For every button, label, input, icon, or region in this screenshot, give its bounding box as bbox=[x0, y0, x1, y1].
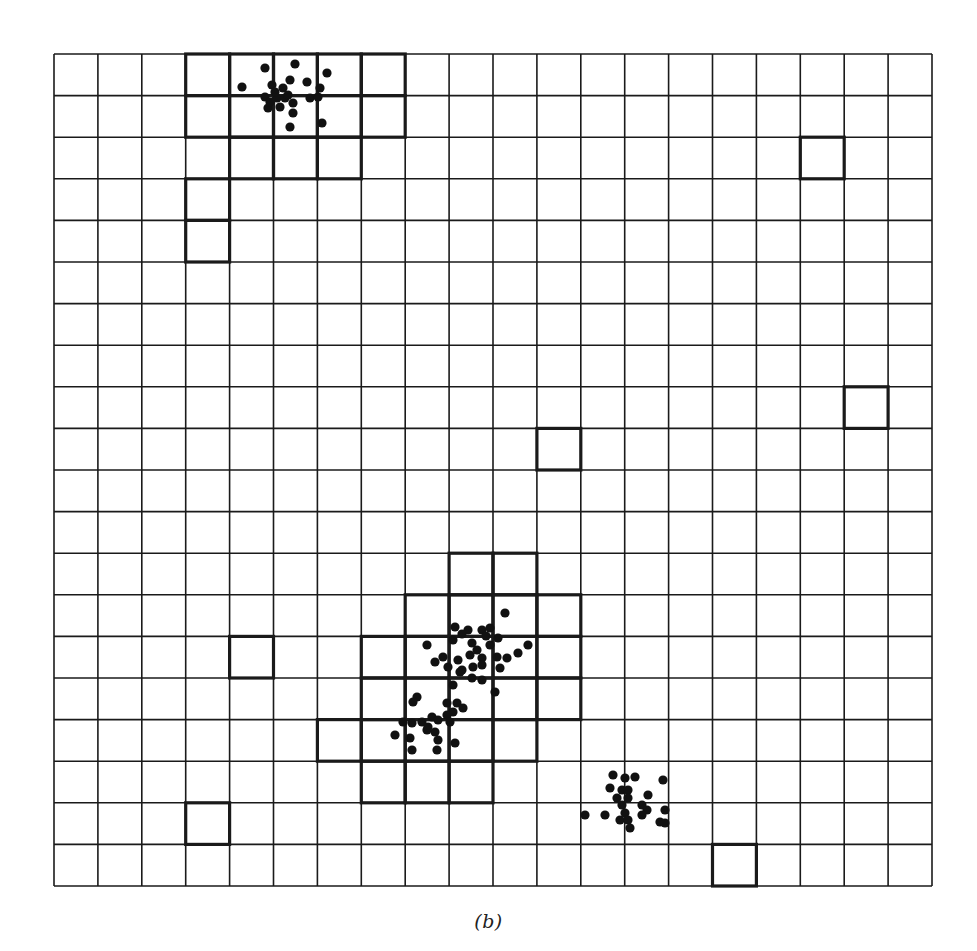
data-point-lower-right-cluster bbox=[643, 790, 652, 799]
data-point-lower-right-cluster bbox=[660, 818, 669, 827]
highlighted-cell-middle-cluster bbox=[537, 678, 581, 720]
highlighted-cell-middle-cluster bbox=[405, 595, 449, 637]
data-point-middle-cluster bbox=[405, 733, 414, 742]
highlighted-cell-top-cluster bbox=[186, 54, 230, 96]
data-point-top-cluster bbox=[270, 87, 279, 96]
data-point-lower-right-cluster bbox=[615, 815, 624, 824]
data-point-lower-right-cluster bbox=[617, 800, 626, 809]
data-point-middle-cluster bbox=[407, 718, 416, 727]
data-point-lower-right-cluster bbox=[608, 770, 617, 779]
figure-caption: (b) bbox=[0, 910, 977, 932]
highlighted-cell-middle-cluster bbox=[317, 720, 361, 762]
data-point-middle-cluster bbox=[513, 648, 522, 657]
data-point-top-cluster bbox=[283, 90, 292, 99]
data-point-middle-cluster bbox=[450, 738, 459, 747]
data-point-top-cluster bbox=[260, 63, 269, 72]
highlighted-cell-top-cluster bbox=[230, 137, 274, 179]
data-point-middle-cluster bbox=[422, 640, 431, 649]
data-point-middle-cluster bbox=[442, 698, 451, 707]
data-point-middle-cluster bbox=[432, 745, 441, 754]
data-point-middle-cluster bbox=[433, 715, 442, 724]
highlighted-cell-top-cluster bbox=[186, 96, 230, 138]
data-point-lower-right-cluster bbox=[658, 775, 667, 784]
data-point-lower-right-cluster bbox=[625, 823, 634, 832]
data-point-top-cluster bbox=[288, 108, 297, 117]
data-point-middle-cluster bbox=[390, 730, 399, 739]
highlighted-cell-middle-cluster bbox=[493, 553, 537, 595]
data-point-middle-cluster bbox=[438, 652, 447, 661]
highlighted-cell-middle-cluster bbox=[493, 678, 537, 720]
data-point-middle-cluster bbox=[477, 660, 486, 669]
data-point-middle-cluster bbox=[472, 645, 481, 654]
data-point-middle-cluster bbox=[490, 687, 499, 696]
data-point-middle-cluster bbox=[407, 745, 416, 754]
data-point-lower-right-cluster bbox=[620, 773, 629, 782]
grid-cluster-diagram bbox=[0, 0, 977, 951]
highlighted-cell-isolated bbox=[230, 636, 274, 678]
data-point-top-cluster bbox=[305, 93, 314, 102]
highlighted-cell-top-cluster bbox=[317, 96, 361, 138]
data-point-lower-right-cluster bbox=[660, 805, 669, 814]
data-point-top-cluster bbox=[317, 118, 326, 127]
data-point-top-cluster bbox=[322, 68, 331, 77]
data-point-middle-cluster bbox=[398, 717, 407, 726]
highlighted-cell-middle-cluster bbox=[449, 761, 493, 803]
data-point-middle-cluster bbox=[445, 717, 454, 726]
data-points bbox=[237, 59, 669, 832]
highlighted-cell-middle-cluster bbox=[537, 636, 581, 678]
data-point-top-cluster bbox=[288, 98, 297, 107]
data-point-top-cluster bbox=[313, 92, 322, 101]
highlighted-cell-isolated bbox=[186, 803, 230, 845]
data-point-middle-cluster bbox=[408, 697, 417, 706]
highlighted-cell-top-cluster bbox=[274, 137, 318, 179]
highlighted-cell-top-cluster bbox=[230, 54, 274, 96]
data-point-middle-cluster bbox=[453, 655, 462, 664]
data-point-middle-cluster bbox=[448, 635, 457, 644]
highlighted-cell-middle-cluster bbox=[361, 761, 405, 803]
highlighted-cell-isolated bbox=[800, 137, 844, 179]
data-point-lower-right-cluster bbox=[623, 785, 632, 794]
data-point-top-cluster bbox=[302, 77, 311, 86]
data-point-middle-cluster bbox=[455, 667, 464, 676]
highlighted-cell-top-cluster bbox=[186, 179, 230, 221]
data-point-lower-right-cluster bbox=[580, 810, 589, 819]
data-point-lower-right-cluster bbox=[600, 810, 609, 819]
data-point-middle-cluster bbox=[485, 623, 494, 632]
data-point-lower-right-cluster bbox=[623, 815, 632, 824]
highlighted-cell-middle-cluster bbox=[405, 761, 449, 803]
highlighted-cell-isolated bbox=[537, 428, 581, 470]
data-point-top-cluster bbox=[285, 75, 294, 84]
data-point-middle-cluster bbox=[423, 722, 432, 731]
data-point-middle-cluster bbox=[448, 680, 457, 689]
data-point-top-cluster bbox=[237, 82, 246, 91]
highlighted-cell-middle-cluster bbox=[361, 678, 405, 720]
data-point-middle-cluster bbox=[523, 640, 532, 649]
data-point-middle-cluster bbox=[450, 622, 459, 631]
data-point-lower-right-cluster bbox=[623, 793, 632, 802]
data-point-top-cluster bbox=[265, 97, 274, 106]
data-point-middle-cluster bbox=[493, 633, 502, 642]
data-point-middle-cluster bbox=[433, 735, 442, 744]
data-point-middle-cluster bbox=[457, 629, 466, 638]
data-point-middle-cluster bbox=[500, 608, 509, 617]
highlighted-cell-top-cluster bbox=[317, 137, 361, 179]
highlighted-cell-middle-cluster bbox=[493, 720, 537, 762]
highlighted-cell-isolated bbox=[713, 844, 757, 886]
highlighted-cell-middle-cluster bbox=[493, 595, 537, 637]
data-point-middle-cluster bbox=[468, 662, 477, 671]
highlighted-cell-top-cluster bbox=[186, 220, 230, 262]
data-point-top-cluster bbox=[315, 83, 324, 92]
data-point-lower-right-cluster bbox=[605, 783, 614, 792]
highlighted-cell-middle-cluster bbox=[449, 553, 493, 595]
data-point-middle-cluster bbox=[502, 653, 511, 662]
data-point-top-cluster bbox=[285, 122, 294, 131]
data-point-middle-cluster bbox=[430, 657, 439, 666]
data-point-middle-cluster bbox=[443, 662, 452, 671]
highlighted-cell-middle-cluster bbox=[537, 595, 581, 637]
highlighted-cell-isolated bbox=[844, 387, 888, 429]
highlighted-cell-top-cluster bbox=[361, 54, 405, 96]
data-point-middle-cluster bbox=[477, 675, 486, 684]
data-point-middle-cluster bbox=[467, 673, 476, 682]
highlighted-cell-middle-cluster bbox=[361, 720, 405, 762]
data-point-middle-cluster bbox=[458, 703, 467, 712]
